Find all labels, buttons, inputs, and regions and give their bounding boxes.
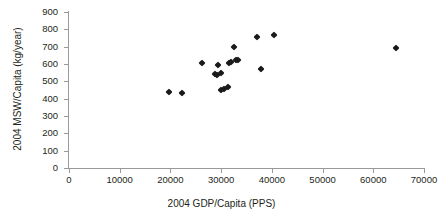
data-point	[235, 56, 242, 63]
y-tick-label: 100	[0, 146, 58, 156]
x-tick-mark	[69, 168, 70, 173]
y-tick-label: 800	[0, 24, 58, 34]
data-point	[257, 65, 264, 72]
data-point	[392, 44, 399, 51]
data-point	[231, 43, 238, 50]
x-axis-line	[68, 168, 425, 169]
y-axis-title: 2004 MSW/Capita (kg/year)	[12, 9, 24, 169]
data-point	[215, 62, 222, 69]
data-point	[178, 89, 185, 96]
y-tick-label: 700	[0, 42, 58, 52]
x-tick-mark	[272, 168, 273, 173]
x-tick-mark	[323, 168, 324, 173]
y-tick-label: 0	[0, 163, 58, 173]
data-point	[270, 31, 277, 38]
y-tick-label: 500	[0, 76, 58, 86]
y-tick-label: 900	[0, 7, 58, 17]
plot-area	[69, 12, 424, 168]
y-tick-label: 200	[0, 128, 58, 138]
x-tick-mark	[373, 168, 374, 173]
x-tick-mark	[221, 168, 222, 173]
x-axis-title: 2004 GDP/Capita (PPS)	[0, 198, 443, 210]
data-point	[199, 59, 206, 66]
x-tick-mark	[424, 168, 425, 173]
data-point	[254, 34, 261, 41]
x-tick-mark	[170, 168, 171, 173]
scatter-chart: 0100200300400500600700800900 01000020000…	[0, 0, 443, 222]
x-tick-label: 70000	[394, 175, 443, 185]
y-tick-label: 400	[0, 94, 58, 104]
y-tick-label: 300	[0, 111, 58, 121]
data-point	[165, 89, 172, 96]
x-tick-mark	[120, 168, 121, 173]
y-tick-label: 600	[0, 59, 58, 69]
